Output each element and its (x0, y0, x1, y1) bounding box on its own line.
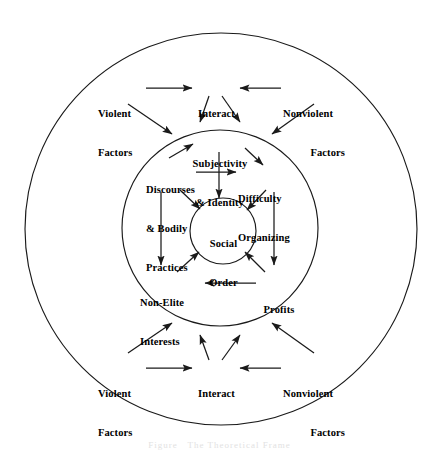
edge-bottom-interact-fan-right (222, 335, 240, 360)
edge-bottom-interact-fan-left (200, 335, 209, 360)
figure-caption: Figure The Theoretical Frame (0, 440, 439, 450)
node-bottom-interact: Interact (192, 361, 241, 426)
node-top-violent-factors: Violent Factors (98, 81, 150, 185)
node-non-elite-interests: Non-Elite Interests (140, 270, 198, 374)
figure-canvas: Violent Factors Interact Nonviolent Fact… (0, 0, 439, 454)
node-profits: Profits (258, 277, 300, 342)
node-social-order: Social Order (193, 211, 254, 315)
